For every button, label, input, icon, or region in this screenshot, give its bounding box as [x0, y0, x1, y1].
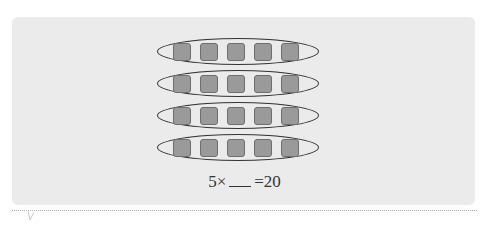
square-item [200, 43, 218, 61]
square-item [254, 43, 272, 61]
square-item [281, 75, 299, 93]
square-item [281, 107, 299, 125]
square-item [200, 107, 218, 125]
square-item [227, 75, 245, 93]
square-item [173, 43, 191, 61]
answer-blank[interactable] [229, 172, 251, 187]
square-item [173, 139, 191, 157]
equation-right: =20 [254, 172, 281, 191]
square-item [254, 107, 272, 125]
square-item [281, 43, 299, 61]
square-item [254, 75, 272, 93]
square-item [200, 139, 218, 157]
check-mark-icon [28, 211, 34, 220]
square-item [173, 107, 191, 125]
square-item [173, 75, 191, 93]
square-item [227, 43, 245, 61]
dotted-divider [12, 210, 477, 211]
equation: 5×=20 [0, 172, 489, 192]
square-item [227, 107, 245, 125]
equation-left: 5× [208, 172, 226, 191]
square-item [254, 139, 272, 157]
square-item [281, 139, 299, 157]
square-item [200, 75, 218, 93]
square-item [227, 139, 245, 157]
